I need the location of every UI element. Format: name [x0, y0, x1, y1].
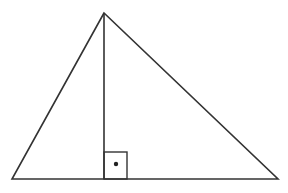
right-angle-dot: [114, 162, 118, 166]
triangle-outline: [12, 13, 278, 179]
triangle-diagram: [0, 0, 288, 193]
